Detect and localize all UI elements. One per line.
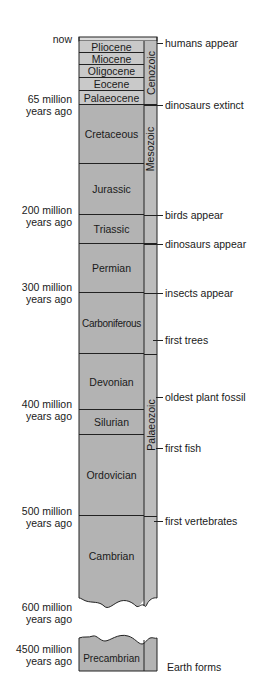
time-label-line1: 65 million (26, 93, 72, 105)
period-ordovician: Ordovician (79, 435, 144, 516)
time-label-line1: 4500 million (16, 643, 72, 655)
event-tick (144, 244, 163, 245)
time-label-200: 200 million years ago (22, 204, 72, 228)
time-label-line2: years ago (22, 410, 72, 422)
time-label-line1: 500 million (22, 505, 72, 517)
time-label-now: now (53, 33, 72, 45)
event-tick (144, 354, 157, 355)
period-triassic: Triassic (79, 215, 144, 244)
time-label-500: 500 million years ago (22, 505, 72, 529)
event-insects-appear: insects appear (165, 287, 233, 299)
time-label-line2: years ago (16, 655, 72, 667)
era-cenozoic: Cenozoic (144, 41, 157, 105)
time-label-4500: 4500 million years ago (16, 643, 72, 667)
era-label: Palaeozoic (145, 399, 157, 450)
time-label-300: 300 million years ago (22, 281, 72, 305)
event-earth-forms: Earth forms (167, 661, 221, 673)
time-label-line1: 600 million (22, 601, 72, 613)
time-label-400: 400 million years ago (22, 398, 72, 422)
event-humans-appear: humans appear (165, 37, 238, 49)
period-devonian: Devonian (79, 354, 144, 410)
event-tick (144, 215, 163, 216)
period-cretaceous: Cretaceous (79, 105, 144, 164)
period-silurian: Silurian (79, 410, 144, 435)
time-label-line2: years ago (22, 293, 72, 305)
event-tick (156, 397, 163, 398)
period-miocene: Miocene (79, 53, 144, 65)
time-label-line2: years ago (22, 216, 72, 228)
time-label-600: 600 million years ago (22, 601, 72, 625)
time-label-line1: 200 million (22, 204, 72, 216)
era-mesozoic: Mesozoic (144, 105, 157, 244)
time-label-line1: 300 million (22, 281, 72, 293)
period-jurassic: Jurassic (79, 164, 144, 215)
event-tick (144, 105, 163, 106)
event-birds-appear: birds appear (165, 209, 223, 221)
event-tick (154, 521, 163, 522)
period-pliocene: Pliocene (79, 41, 144, 53)
event-first-vertebrates: first vertebrates (165, 515, 237, 527)
event-dinosaurs-extinct: dinosaurs extinct (165, 99, 244, 111)
event-tick (144, 516, 157, 517)
event-tick (153, 340, 163, 341)
event-first-trees: first trees (165, 334, 208, 346)
era-label: Cenozoic (145, 51, 157, 95)
time-label-65: 65 million years ago (26, 93, 72, 117)
time-label-line2: years ago (22, 613, 72, 625)
era-label: Mesozoic (145, 127, 157, 171)
event-tick (144, 293, 163, 294)
period-oligocene: Oligocene (79, 65, 144, 78)
period-permian: Permian (79, 244, 144, 293)
event-first-fish: first fish (165, 442, 201, 454)
time-label-line2: years ago (26, 105, 72, 117)
period-palaeocene: Palaeocene (79, 91, 144, 105)
period-precambrian: Precambrian (79, 645, 144, 671)
event-tick (157, 43, 163, 44)
time-label-line1: 400 million (22, 398, 72, 410)
period-cambrian: Cambrian (79, 516, 144, 596)
period-eocene: Eocene (79, 78, 144, 91)
event-tick (156, 448, 163, 449)
event-dinosaurs-appear: dinosaurs appear (165, 238, 246, 250)
event-oldest-plant-fossil: oldest plant fossil (165, 391, 246, 403)
time-label-line2: years ago (22, 517, 72, 529)
period-carboniferous: Carboniferous (79, 293, 144, 354)
